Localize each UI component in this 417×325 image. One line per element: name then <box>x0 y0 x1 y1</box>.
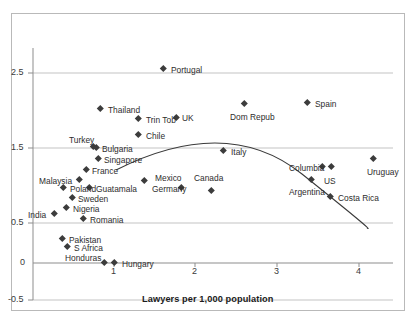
point-label-argentina: Argentina <box>289 188 325 196</box>
x-tick-label-4: 4 <box>356 266 361 276</box>
point-label-malaysia: Malaysia <box>39 177 72 185</box>
chart-frame: 2.5 1.5 0.5 0 -0.5 1 2 3 4 Lawyers per 1… <box>11 13 405 311</box>
point-label-nigeria: Nigeria <box>73 205 100 213</box>
x-tick-label-2: 2 <box>192 266 197 276</box>
plot-area <box>12 14 406 312</box>
y-tick-label-2.5: 2.5 <box>11 67 24 77</box>
point-label-sweden: Sweden <box>78 195 108 203</box>
point-label-uk: UK <box>182 114 194 122</box>
point-label-s-africa: S Africa <box>74 244 103 252</box>
x-axis-title: Lawyers per 1,000 population <box>142 294 273 304</box>
point-label-us: US <box>324 177 336 185</box>
x-tick-label-1: 1 <box>111 266 116 276</box>
point-label-honduras: Honduras <box>65 254 101 262</box>
point-label-canada: Canada <box>194 174 223 182</box>
point-label-france: France <box>92 167 118 175</box>
point-label-germany: Germany <box>152 185 186 193</box>
y-tick-label-1.5: 1.5 <box>11 142 24 152</box>
point-label-bulgaria: Bulgaria <box>102 145 133 153</box>
point-label-italy: Italy <box>231 148 246 156</box>
y-tick-label-neg0.5: -0.5 <box>8 294 24 304</box>
point-label-uruguay: Uruguay <box>367 168 399 176</box>
point-label-singapore: Singapore <box>104 156 142 164</box>
point-label-portugal: Portugal <box>171 66 202 74</box>
point-label-romania: Romania <box>90 216 124 224</box>
point-label-spain: Spain <box>315 100 336 108</box>
y-tick-label-0.5: 0.5 <box>11 217 24 227</box>
point-label-mexico: Mexico <box>155 174 182 182</box>
point-label-costa-rica: Costa Rica <box>338 194 379 202</box>
point-label-guatamala: Guatamala <box>96 185 137 193</box>
point-label-turkey: Turkey <box>69 136 94 144</box>
x-tick-label-3: 3 <box>274 266 279 276</box>
y-tick-label-0: 0 <box>20 257 25 267</box>
point-label-poland: Poland <box>70 185 96 193</box>
point-label-thailand: Thailand <box>108 106 140 114</box>
point-label-india: India <box>28 211 46 219</box>
point-label-hungary: Hungary <box>122 260 154 268</box>
point-label-chile: Chile <box>146 132 165 140</box>
point-label-columbia: Columbia <box>289 164 324 172</box>
point-label-dom-repub: Dom Repub <box>230 113 275 121</box>
point-label-trin-tob: Trin Tob <box>146 116 176 124</box>
